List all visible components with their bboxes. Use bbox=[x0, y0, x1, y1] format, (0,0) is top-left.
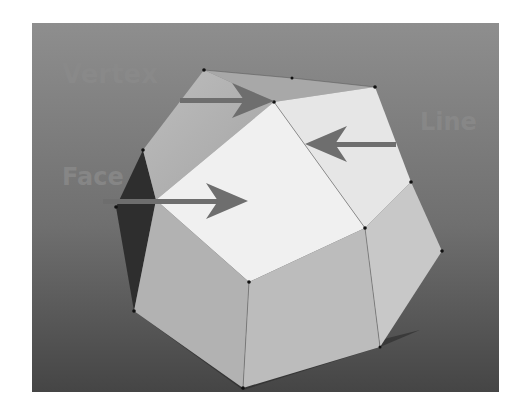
line-label: Line bbox=[420, 108, 477, 136]
vertex-label: Vertex bbox=[62, 59, 158, 89]
polyhedron-diagram: Vertex Line Face bbox=[0, 0, 524, 413]
face-label: Face bbox=[62, 163, 124, 191]
